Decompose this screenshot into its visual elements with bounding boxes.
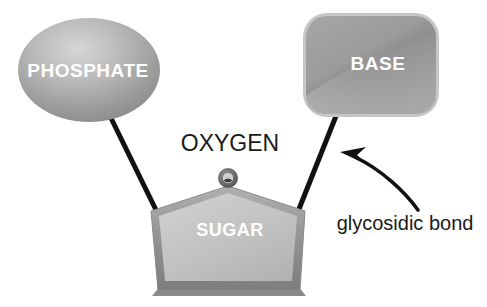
oxygen-node[interactable] [218,168,238,188]
glycosidic-bond-arrow [340,147,418,210]
phosphate-label: PHOSPHATE [27,60,148,81]
nucleotide-diagram: SUGAR PHOSPHATE BASE OXYGEN glycosid [0,0,487,307]
sugar-node[interactable]: SUGAR [151,186,306,296]
glycosidic-bond-label: glycosidic bond [337,212,474,234]
phosphate-node[interactable]: PHOSPHATE [18,18,160,122]
oxygen-text-label: OXYGEN [181,130,279,156]
base-node[interactable]: BASE [303,13,439,117]
arrow-curve [355,157,418,210]
diagram-canvas: SUGAR PHOSPHATE BASE OXYGEN glycosid [0,0,487,307]
bond-line-phosphate-sugar [110,116,156,210]
arrow-head [340,147,368,165]
base-label: BASE [351,53,406,74]
sugar-label: SUGAR [196,220,264,240]
bond-line-base-sugar [299,116,336,209]
